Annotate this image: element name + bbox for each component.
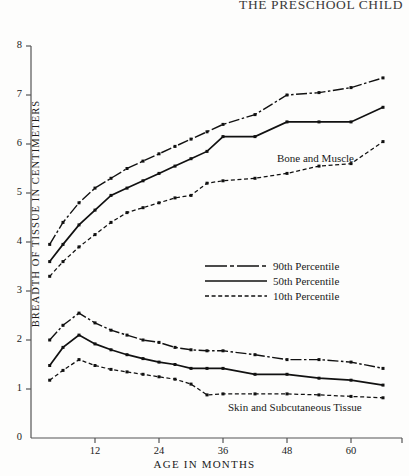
data-point: [222, 123, 225, 126]
data-point: [142, 160, 145, 163]
data-point: [190, 383, 193, 386]
x-tick-label: 60: [338, 445, 364, 456]
data-point: [142, 339, 145, 342]
data-point: [62, 369, 65, 372]
data-point: [48, 339, 51, 342]
data-point: [318, 393, 321, 396]
data-point: [48, 364, 51, 367]
data-point: [286, 392, 289, 395]
data-point: [126, 187, 129, 190]
data-point: [206, 349, 209, 352]
x-tick-label: 36: [210, 445, 236, 456]
data-point: [190, 138, 193, 141]
data-point: [126, 334, 129, 337]
data-point: [206, 150, 209, 153]
data-point: [382, 396, 385, 399]
data-point: [126, 211, 129, 214]
figure-page: THE PRESCHOOL CHILD BREADTH OF TISSUE IN…: [0, 0, 409, 476]
data-point: [350, 379, 353, 382]
annotation-bone-and-muscle: Bone and Muscle: [277, 152, 354, 164]
data-point: [94, 187, 97, 190]
data-point: [110, 368, 113, 371]
data-point: [350, 361, 353, 364]
data-point: [350, 395, 353, 398]
legend-row-10th: 10th Percentile: [205, 288, 339, 303]
data-point: [318, 120, 321, 123]
data-point: [62, 324, 65, 327]
x-axis-title: AGE IN MONTHS: [0, 458, 409, 470]
data-point: [78, 312, 81, 315]
data-point: [62, 346, 65, 349]
data-point: [78, 201, 81, 204]
y-tick-label: 6: [6, 137, 22, 148]
data-point: [350, 86, 353, 89]
data-point: [78, 223, 81, 226]
data-point: [286, 358, 289, 361]
data-point: [48, 275, 51, 278]
series-line: [50, 313, 383, 368]
data-point: [174, 363, 177, 366]
data-point: [48, 379, 51, 382]
data-point: [62, 221, 65, 224]
data-point: [174, 196, 177, 199]
data-point: [206, 367, 209, 370]
x-tick-label: 12: [82, 445, 108, 456]
legend-label-90th: 90th Percentile: [273, 260, 339, 272]
data-point: [94, 209, 97, 212]
legend-key-solid-icon: [205, 275, 267, 286]
data-point: [62, 243, 65, 246]
data-point: [382, 106, 385, 109]
data-point: [78, 245, 81, 248]
data-point: [190, 194, 193, 197]
y-tick-label: 3: [6, 284, 22, 295]
legend-label-10th: 10th Percentile: [273, 290, 339, 302]
data-point: [254, 177, 257, 180]
series-group-0: [48, 76, 384, 277]
data-point: [158, 172, 161, 175]
data-point: [78, 358, 81, 361]
data-point: [110, 329, 113, 332]
data-point: [382, 367, 385, 370]
data-point: [78, 334, 81, 337]
data-point: [222, 135, 225, 138]
data-point: [318, 91, 321, 94]
data-point: [174, 145, 177, 148]
data-point: [222, 392, 225, 395]
data-point: [158, 341, 161, 344]
data-point: [110, 177, 113, 180]
data-point: [254, 373, 257, 376]
data-point: [318, 358, 321, 361]
data-point: [110, 194, 113, 197]
data-point: [142, 206, 145, 209]
y-tick-label: 2: [6, 333, 22, 344]
data-point: [350, 120, 353, 123]
legend-label-50th: 50th Percentile: [273, 275, 339, 287]
data-point: [158, 375, 161, 378]
data-point: [94, 342, 97, 345]
data-point: [206, 182, 209, 185]
data-point: [174, 346, 177, 349]
series-group-1: [48, 312, 384, 400]
data-point: [286, 373, 289, 376]
y-tick-label: 1: [6, 382, 22, 393]
data-point: [94, 233, 97, 236]
y-axis-title: BREADTH OF TISSUE IN CENTIMETERS: [30, 84, 41, 344]
y-tick-label: 4: [6, 235, 22, 246]
data-point: [254, 135, 257, 138]
chart-legend: 90th Percentile 50th Percentile 10th Per…: [205, 258, 339, 303]
data-point: [254, 113, 257, 116]
data-point: [126, 353, 129, 356]
data-point: [94, 364, 97, 367]
data-point: [158, 201, 161, 204]
data-point: [94, 321, 97, 324]
data-point: [286, 94, 289, 97]
data-point: [254, 353, 257, 356]
y-tick-label: 5: [6, 186, 22, 197]
data-point: [318, 165, 321, 168]
data-point: [286, 120, 289, 123]
data-point: [126, 370, 129, 373]
legend-key-dashed-icon: [205, 290, 267, 301]
data-point: [222, 367, 225, 370]
legend-key-dash-dot-icon: [205, 260, 267, 271]
data-point: [206, 130, 209, 133]
